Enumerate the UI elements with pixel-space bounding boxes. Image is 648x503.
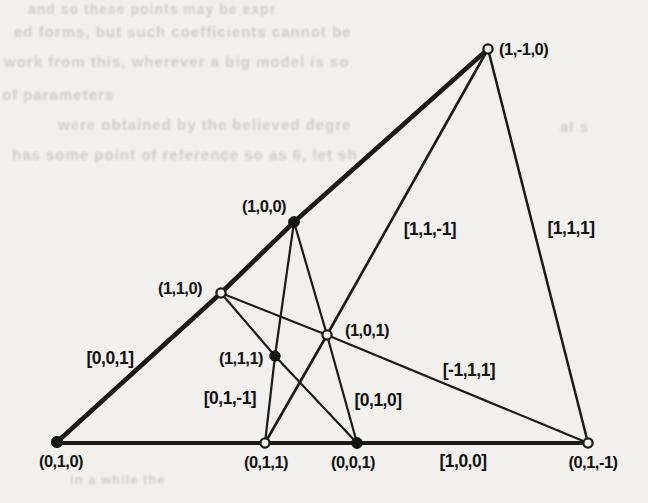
point-marker-1-1-0	[216, 288, 225, 297]
line-label-0-0-1: [0,0,1]	[86, 348, 133, 368]
point-label-1-1-1: (1,1,1)	[219, 349, 263, 367]
point-marker-1-0-0	[289, 217, 300, 228]
line-label-1-0-0: [1,0,0]	[439, 451, 486, 471]
point-marker-0-1-1	[260, 438, 269, 447]
line-label-0-1-neg1: [0,1,-1]	[204, 388, 256, 408]
point-marker-1-0-1	[322, 330, 331, 339]
point-label-0-1-0: (0,1,0)	[39, 452, 83, 470]
point-label-1-1-0: (1,1,0)	[158, 279, 202, 297]
point-marker-0-1-neg1	[583, 438, 592, 447]
line-label-0-1-0: [0,1,0]	[354, 390, 401, 410]
line-label-neg1-1-1: [-1,1,1]	[443, 360, 495, 380]
point-label-0-0-1: (0,0,1)	[331, 453, 375, 471]
line-0-1-neg1	[265, 222, 294, 443]
point-label-1-neg1-0: (1,-1,0)	[499, 40, 548, 58]
line-label-1-1-1: [1,1,1]	[547, 218, 594, 238]
point-marker-0-1-0	[51, 436, 62, 447]
scanned-book-page: and so these points may be expr ed forms…	[0, 0, 648, 503]
point-marker-1-1-1	[270, 351, 280, 361]
point-marker-0-0-1	[352, 438, 363, 449]
line-neg1-1-1	[221, 293, 588, 443]
line-label-1-1-neg1: [1,1,-1]	[404, 219, 456, 239]
point-label-0-1-neg1: (0,1,-1)	[568, 453, 617, 471]
line-1-1-neg1	[265, 49, 488, 443]
point-label-1-0-0: (1,0,0)	[242, 197, 286, 215]
projective-plane-incidence-diagram: (1,-1,0) (1,0,0) (1,1,0) (1,1,1) (1,0,1)…	[0, 0, 648, 503]
point-label-0-1-1: (0,1,1)	[244, 453, 288, 471]
point-marker-1-neg1-0	[483, 44, 492, 53]
line-1-1-1-right-edge	[488, 49, 588, 443]
point-label-1-0-1: (1,0,1)	[345, 321, 389, 339]
